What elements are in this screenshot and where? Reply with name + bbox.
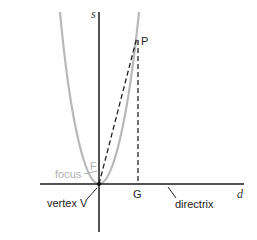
focus-text-label: focus — [55, 168, 82, 180]
vertex-pointer — [87, 188, 97, 199]
vertex-point — [97, 182, 101, 186]
point-g-label: G — [133, 188, 142, 200]
s-axis-label: s — [91, 7, 96, 21]
dashed-line-vp — [99, 37, 137, 184]
directrix-label: directrix — [175, 198, 214, 210]
point-p-label: P — [141, 35, 148, 47]
directrix-pointer — [168, 187, 176, 198]
d-axis-label: d — [237, 187, 244, 201]
vertex-label: vertex V — [47, 197, 88, 209]
parabola-diagram: s d P G F focus vertex V directrix — [0, 0, 257, 240]
focus-point-label: F — [90, 160, 97, 172]
